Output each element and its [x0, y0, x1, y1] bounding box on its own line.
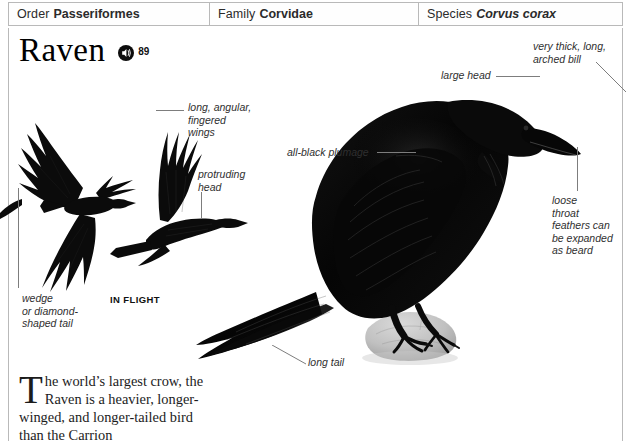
species-value: Corvus corax [476, 7, 556, 21]
order-label: Order [17, 7, 49, 21]
leader-wings [156, 110, 184, 111]
annotation-tail-shape: wedge or diamond- shaped tail [22, 292, 78, 330]
bird-name: Raven [19, 33, 105, 67]
taxonomy-order: Order Passeriformes [9, 3, 210, 25]
leader-bill [596, 62, 630, 100]
leader-tail-shape [18, 188, 19, 288]
annotation-bill: very thick, long, arched bill [533, 40, 606, 65]
family-label: Family [218, 7, 255, 21]
taxonomy-header: Order Passeriformes Family Corvidae Spec… [8, 2, 623, 26]
annotation-protruding-head: protruding head [198, 168, 245, 193]
leader-throat [577, 147, 578, 191]
species-label: Species [427, 7, 472, 21]
taxonomy-species: Species Corvus corax [419, 3, 622, 25]
eye [524, 126, 529, 131]
leader-plumage [377, 152, 416, 153]
page-title: Raven 89 [19, 33, 149, 67]
speaker-icon[interactable] [118, 45, 134, 61]
annotation-throat: loose throat feathers can be expanded as… [552, 194, 613, 257]
family-value: Corvidae [259, 7, 313, 21]
raven-perched-illustration [196, 56, 596, 396]
species-description: The world’s largest crow, the Raven is a… [19, 372, 215, 441]
in-flight-label: IN FLIGHT [110, 294, 160, 305]
annotation-plumage: all-black plumage [287, 146, 369, 159]
sound-track-number: 89 [138, 46, 149, 57]
description-text: he world’s largest crow, the Raven is a … [19, 373, 203, 441]
annotation-large-head: large head [441, 69, 491, 82]
field-guide-page: Order Passeriformes Family Corvidae Spec… [0, 0, 638, 441]
leader-large-head [496, 76, 540, 77]
drop-cap: T [19, 372, 45, 405]
annotation-long-tail: long tail [308, 356, 344, 369]
annotation-wings: long, angular, fingered wings [188, 101, 251, 139]
order-value: Passeriformes [53, 7, 139, 21]
leader-long-tail [272, 345, 308, 371]
leader-protruding-head [201, 192, 202, 218]
taxonomy-family: Family Corvidae [210, 3, 419, 25]
